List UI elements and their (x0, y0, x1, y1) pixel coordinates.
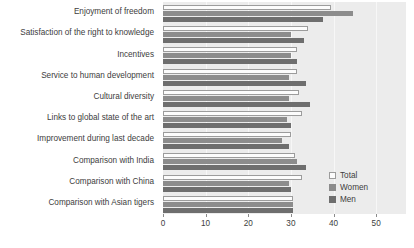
bar-men (163, 123, 291, 128)
x-tick-mark (334, 214, 335, 217)
chart-figure: Enjoyment of freedomSatisfaction of the … (0, 0, 414, 248)
legend-item-women[interactable]: Women (329, 182, 395, 193)
bar-women (163, 96, 289, 101)
x-tick-mark (291, 214, 292, 217)
bar-total (163, 47, 297, 52)
bar-women (163, 11, 353, 16)
bar-group (163, 87, 406, 108)
x-tick-label: 40 (329, 219, 338, 228)
bar-group (163, 150, 406, 171)
bar-men (163, 17, 323, 22)
bar-men (163, 165, 306, 170)
legend-label: Women (340, 183, 368, 192)
bar-women (163, 117, 287, 122)
category-label: Comparison with China (0, 177, 154, 187)
bar-group (163, 23, 406, 44)
category-label: Comparison with Asian tigers (0, 198, 154, 208)
bar-total (163, 5, 331, 10)
legend-label: Men (340, 195, 356, 204)
bar-men (163, 208, 293, 213)
bar-group (163, 108, 406, 129)
legend-swatch-total (329, 172, 336, 179)
bar-total (163, 26, 308, 31)
bar-women (163, 138, 282, 143)
category-label: Links to global state of the art (0, 113, 154, 123)
x-tick-mark (248, 214, 249, 217)
legend-swatch-men (329, 196, 336, 203)
category-label: Satisfaction of the right to knowledge (0, 28, 154, 38)
bar-men (163, 59, 297, 64)
bar-group (163, 2, 406, 23)
legend-swatch-women (329, 184, 336, 191)
bar-men (163, 102, 310, 107)
category-label: Comparison with India (0, 156, 154, 166)
bar-total (163, 132, 291, 137)
x-tick-label: 10 (201, 219, 210, 228)
bar-men (163, 38, 304, 43)
category-label: Incentives (0, 50, 154, 60)
bar-women (163, 32, 291, 37)
chart-legend: TotalWomenMen (329, 170, 395, 206)
legend-label: Total (340, 171, 357, 180)
bar-women (163, 75, 289, 80)
bar-women (163, 202, 293, 207)
x-tick-label: 20 (244, 219, 253, 228)
bar-total (163, 196, 293, 201)
bar-men (163, 187, 291, 192)
bar-group (163, 66, 406, 87)
category-label: Improvement during last decade (0, 134, 154, 144)
x-tick-mark (163, 214, 164, 217)
x-tick-mark (206, 214, 207, 217)
x-axis: 01020304050 (163, 214, 406, 236)
category-label: Cultural diversity (0, 92, 154, 102)
bar-women (163, 181, 289, 186)
bar-group (163, 44, 406, 65)
bar-total (163, 69, 297, 74)
bar-total (163, 175, 302, 180)
legend-item-men[interactable]: Men (329, 194, 395, 205)
bar-total (163, 153, 295, 158)
bar-women (163, 159, 297, 164)
bar-men (163, 81, 306, 86)
x-tick-label: 30 (286, 219, 295, 228)
bar-total (163, 90, 299, 95)
bar-men (163, 144, 289, 149)
bar-group (163, 129, 406, 150)
bar-total (163, 111, 302, 116)
x-tick-label: 0 (161, 219, 166, 228)
x-tick-mark (376, 214, 377, 217)
category-label: Service to human development (0, 71, 154, 81)
bar-women (163, 53, 291, 58)
category-label: Enjoyment of freedom (0, 7, 154, 17)
x-tick-label: 50 (372, 219, 381, 228)
legend-item-total[interactable]: Total (329, 170, 395, 181)
category-axis-labels: Enjoyment of freedomSatisfaction of the … (0, 2, 159, 214)
